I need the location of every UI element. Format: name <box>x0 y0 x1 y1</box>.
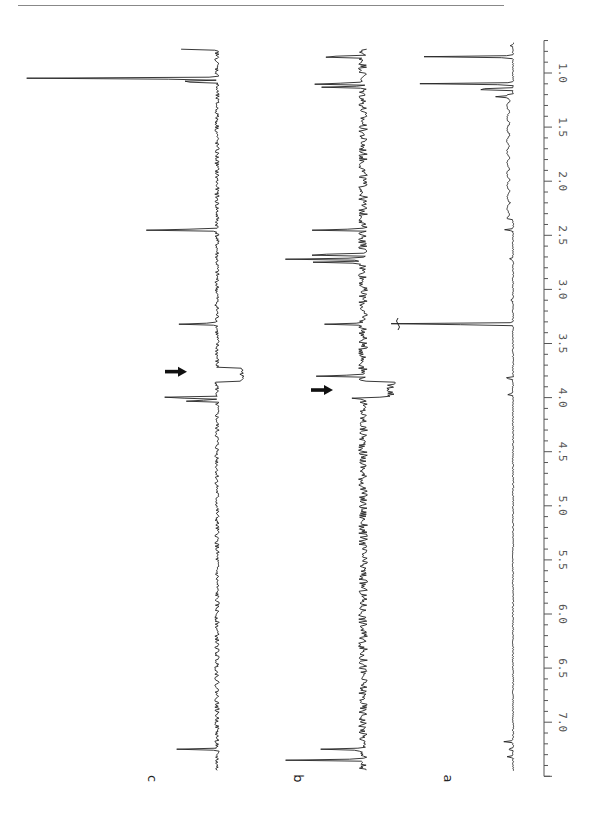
tick-label: 1.0 <box>556 63 569 83</box>
tick-label: 2.0 <box>556 171 569 191</box>
arrow-icon-b <box>311 385 333 395</box>
tick-label: 1.5 <box>556 117 569 137</box>
arrow-icon-c <box>165 367 187 377</box>
tick-label: 4.5 <box>556 442 569 462</box>
tick-label: 3.5 <box>556 334 569 354</box>
trace-label-b: b <box>291 774 306 782</box>
trace-labels: abc <box>145 774 456 782</box>
tick-label: 7.0 <box>556 712 569 732</box>
tick-label: 2.5 <box>556 225 569 245</box>
spectrum-trace-a <box>391 43 513 771</box>
spectrum-trace-c <box>27 49 244 770</box>
spectra-traces <box>27 43 514 771</box>
tick-label: 5.5 <box>556 550 569 570</box>
ppm-axis: 1.01.52.02.53.03.54.04.55.05.56.06.57.0 <box>544 41 569 777</box>
trace-label-a: a <box>441 774 456 782</box>
tick-label: 6.0 <box>556 604 569 624</box>
tick-label: 5.0 <box>556 496 569 516</box>
tick-label: 6.5 <box>556 658 569 678</box>
tick-label: 4.0 <box>556 388 569 408</box>
nmr-spectra-plot: 1.01.52.02.53.03.54.04.55.05.56.06.57.0 … <box>0 0 598 832</box>
spectrum-trace-b <box>285 49 395 770</box>
trace-label-c: c <box>145 775 160 782</box>
tick-label: 3.0 <box>556 279 569 299</box>
